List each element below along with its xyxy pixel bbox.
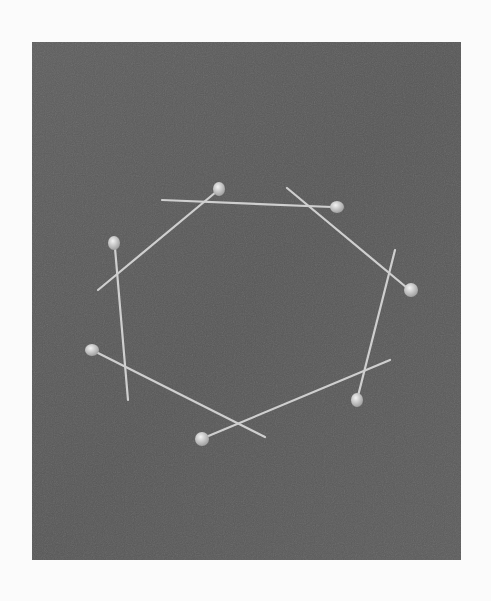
photograph bbox=[32, 42, 461, 560]
pins-ring-illustration bbox=[32, 42, 461, 560]
